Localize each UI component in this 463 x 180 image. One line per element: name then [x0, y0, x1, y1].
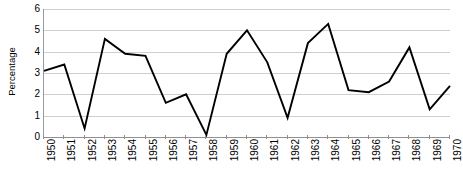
x-tick-mark	[205, 135, 206, 139]
x-tick-mark	[408, 135, 409, 139]
x-tick-label: 1952	[88, 139, 98, 161]
x-tick-mark	[185, 135, 186, 139]
x-tick-mark	[327, 135, 328, 139]
x-tick-label: 1963	[311, 139, 321, 161]
y-axis-tick-labels: 0123456	[22, 0, 43, 143]
x-tick-mark	[287, 135, 288, 139]
y-axis-title-text: Percentage	[6, 47, 17, 96]
x-axis-tick-labels: 1950195119521953195419551956195719581959…	[43, 139, 449, 180]
x-tick-mark	[368, 135, 369, 139]
y-tick-label: 0	[34, 132, 40, 142]
x-tick-label: 1955	[149, 139, 159, 161]
x-tick-label: 1953	[108, 139, 118, 161]
x-tick-mark	[388, 135, 389, 139]
y-tick-label: 2	[34, 89, 40, 99]
x-tick-mark	[63, 135, 64, 139]
x-tick-mark	[429, 135, 430, 139]
x-tick-label: 1960	[250, 139, 260, 161]
x-tick-label: 1957	[189, 139, 199, 161]
x-tick-label: 1964	[331, 139, 341, 161]
x-tick-label: 1958	[209, 139, 219, 161]
x-tick-label: 1956	[169, 139, 179, 161]
x-tick-label: 1961	[270, 139, 280, 161]
series-polyline	[44, 24, 450, 135]
y-axis-title: Percentage	[0, 0, 22, 143]
x-tick-label: 1954	[128, 139, 138, 161]
x-tick-label: 1966	[372, 139, 382, 161]
x-tick-mark	[226, 135, 227, 139]
x-tick-label: 1965	[352, 139, 362, 161]
x-tick-mark	[348, 135, 349, 139]
x-tick-label: 1967	[392, 139, 402, 161]
x-tick-mark	[43, 135, 44, 139]
x-tick-label: 1951	[67, 139, 77, 161]
y-tick-label: 6	[34, 4, 40, 14]
x-tick-mark	[104, 135, 105, 139]
series-line	[44, 9, 450, 137]
y-tick-label: 1	[34, 111, 40, 121]
x-tick-mark	[124, 135, 125, 139]
x-tick-mark	[165, 135, 166, 139]
gridline	[44, 137, 450, 138]
x-tick-mark	[307, 135, 308, 139]
x-tick-label: 1969	[433, 139, 443, 161]
y-tick-label: 3	[34, 68, 40, 78]
y-tick-label: 5	[34, 25, 40, 35]
x-tick-mark	[449, 135, 450, 139]
x-tick-label: 1950	[47, 139, 57, 161]
plot-area	[43, 9, 450, 137]
x-tick-mark	[266, 135, 267, 139]
x-tick-mark	[145, 135, 146, 139]
x-tick-mark	[246, 135, 247, 139]
x-tick-label: 1970	[453, 139, 463, 161]
x-tick-mark	[84, 135, 85, 139]
y-tick-label: 4	[34, 47, 40, 57]
x-tick-label: 1959	[230, 139, 240, 161]
x-tick-label: 1968	[412, 139, 422, 161]
x-tick-label: 1962	[291, 139, 301, 161]
